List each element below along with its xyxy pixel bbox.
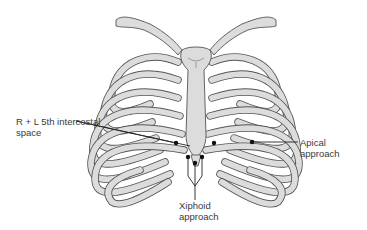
- apical-label: Apical approach: [300, 137, 367, 159]
- right-ribs: [206, 57, 299, 204]
- xiphoid-label-line1: Xiphoid: [179, 200, 219, 211]
- right-clavicle: [116, 17, 182, 55]
- left-ribs: [91, 57, 184, 204]
- xiphoid-label: Xiphoid approach: [179, 200, 219, 222]
- intercostal-label: R + L 5th intercostal space: [16, 116, 100, 138]
- intercostal-label-line1: R + L 5th intercostal: [16, 116, 100, 127]
- left-clavicle: [210, 17, 276, 55]
- thoracic-cage-illustration: [0, 0, 367, 230]
- intercostal-label-line2: space: [16, 127, 100, 138]
- xiphoid-label-line2: approach: [179, 211, 219, 222]
